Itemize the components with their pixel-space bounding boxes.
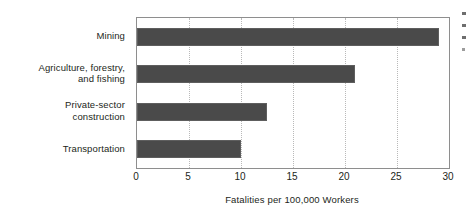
clipped-text-fragment bbox=[462, 12, 466, 15]
x-axis-tick-labels: 051015202530 bbox=[136, 170, 448, 186]
clipped-adjacent-column-text bbox=[462, 12, 475, 64]
x-axis-tick-label: 0 bbox=[133, 170, 139, 184]
category-label-line: Agriculture, forestry, bbox=[0, 62, 125, 74]
category-label: Mining bbox=[0, 30, 125, 42]
category-label-line: Transportation bbox=[0, 143, 125, 155]
category-label-line: and fishing bbox=[0, 73, 125, 85]
category-label: Private-sectorconstruction bbox=[0, 99, 125, 122]
clipped-text-fragment bbox=[462, 36, 466, 39]
x-axis-tick-label: 5 bbox=[185, 170, 191, 184]
bar bbox=[137, 65, 355, 83]
bar bbox=[137, 103, 267, 121]
x-axis-tick-label: 30 bbox=[442, 170, 453, 184]
clipped-text-fragment bbox=[462, 24, 466, 27]
bar bbox=[137, 140, 241, 158]
plot-area bbox=[136, 17, 450, 169]
bar-series bbox=[137, 18, 449, 168]
category-label-line: Private-sector bbox=[0, 99, 125, 111]
clipped-text-fragment bbox=[462, 48, 465, 51]
x-axis-tick-label: 25 bbox=[390, 170, 401, 184]
category-label: Transportation bbox=[0, 143, 125, 155]
bar bbox=[137, 28, 439, 46]
x-axis-tick-label: 10 bbox=[234, 170, 245, 184]
category-label-line: Mining bbox=[0, 30, 125, 42]
bar-chart-figure: MiningAgriculture, forestry,and fishingP… bbox=[0, 0, 475, 221]
category-label-line: construction bbox=[0, 111, 125, 123]
category-label: Agriculture, forestry,and fishing bbox=[0, 62, 125, 85]
category-axis-labels: MiningAgriculture, forestry,and fishingP… bbox=[0, 17, 130, 167]
x-axis-tick-label: 15 bbox=[286, 170, 297, 184]
x-axis-tick-label: 20 bbox=[338, 170, 349, 184]
x-axis-title: Fatalities per 100,000 Workers bbox=[136, 194, 448, 205]
